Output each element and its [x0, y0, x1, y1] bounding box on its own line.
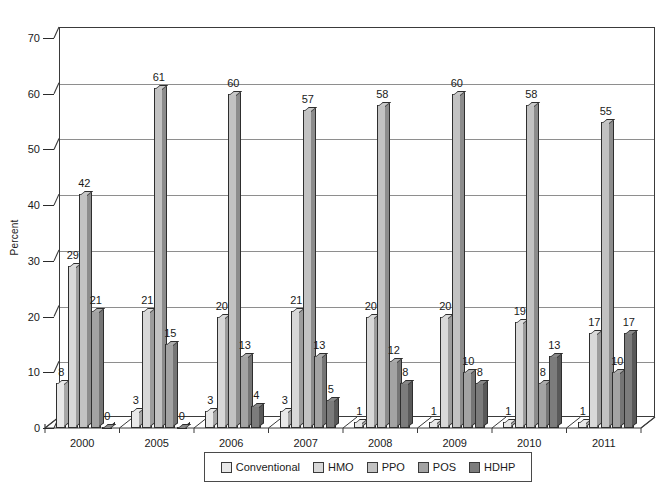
- legend-swatch-icon: [418, 462, 429, 473]
- bar-value-label: 13: [540, 340, 568, 351]
- bar-value-label: 8: [466, 367, 494, 378]
- bar-value-label: 17: [615, 317, 643, 328]
- bar: [79, 194, 89, 428]
- bar-value-label: 8: [391, 367, 419, 378]
- bar: [154, 88, 164, 428]
- bar: [612, 372, 622, 428]
- bar-value-label: 4: [242, 390, 270, 401]
- bar-value-label: 60: [443, 78, 471, 89]
- bar-value-label: 13: [305, 340, 333, 351]
- bar-value-label: 12: [380, 345, 408, 356]
- x-axis-tick-label: 2006: [191, 437, 271, 449]
- legend-swatch-icon: [367, 462, 378, 473]
- legend-swatch-icon: [221, 462, 232, 473]
- legend-item-label: HMO: [328, 462, 354, 473]
- bar-side-face: [408, 381, 413, 427]
- legend-item[interactable]: HDHP: [469, 462, 515, 473]
- bar: [440, 317, 450, 428]
- bar: [326, 400, 336, 428]
- bar: [624, 333, 634, 428]
- y-axis-tick-mark: [43, 205, 54, 206]
- bar-value-label: 21: [82, 295, 110, 306]
- chart-legend: ConventionalHMOPPOPOSHDHP: [204, 452, 532, 482]
- y-axis-tick-label: 40: [0, 200, 40, 210]
- bar: [131, 411, 141, 428]
- bar: [400, 383, 410, 428]
- bar: [354, 422, 364, 428]
- bar: [228, 94, 238, 428]
- x-axis-tick-label: 2009: [415, 437, 495, 449]
- y-axis-tick-mark: [43, 149, 54, 150]
- y-axis-tick-mark: [43, 261, 54, 262]
- y-axis-tick-mark: [43, 428, 54, 429]
- bar: [463, 372, 473, 428]
- legend-item[interactable]: Conventional: [221, 462, 300, 473]
- bar: [589, 333, 599, 428]
- gridline: [60, 195, 654, 196]
- legend-item-label: PPO: [382, 462, 405, 473]
- bar-value-label: 13: [231, 340, 259, 351]
- bar: [251, 406, 261, 428]
- bar-top-face: [103, 424, 116, 428]
- y-axis-tick-mark: [43, 317, 54, 318]
- y-axis-tick-label: 10: [0, 367, 40, 377]
- bar-value-label: 57: [294, 94, 322, 105]
- x-axis-tick-label: 2011: [564, 437, 644, 449]
- x-axis-tick-label: 2010: [489, 437, 569, 449]
- bar: [526, 105, 536, 428]
- axis-line: [641, 417, 655, 428]
- bar-value-label: 55: [592, 106, 620, 117]
- bar: [56, 383, 66, 428]
- legend-item[interactable]: POS: [418, 462, 456, 473]
- axis-line: [641, 417, 655, 428]
- bar-value-label: 0: [93, 411, 121, 422]
- gridline: [60, 84, 654, 85]
- bar: [549, 356, 559, 428]
- legend-item[interactable]: HMO: [313, 462, 354, 473]
- chart-canvas: Percent 010203040506070 8294221032161150…: [0, 0, 669, 492]
- legend-swatch-icon: [313, 462, 324, 473]
- bar-value-label: 58: [368, 89, 396, 100]
- x-axis-tick-label: 2000: [42, 437, 122, 449]
- bar-value-label: 5: [317, 384, 345, 395]
- bar: [503, 422, 513, 428]
- bar: [205, 411, 215, 428]
- bar: [303, 110, 313, 428]
- y-axis-tick-label: 60: [0, 89, 40, 99]
- x-axis-tick-label: 2008: [340, 437, 420, 449]
- bar: [601, 122, 611, 428]
- bar-side-face: [632, 330, 637, 427]
- x-axis-tick-label: 2005: [117, 437, 197, 449]
- bar-side-face: [483, 381, 488, 427]
- bar-value-label: 15: [156, 328, 184, 339]
- y-axis-tick-label: 20: [0, 312, 40, 322]
- y-axis-tick-mark: [43, 94, 54, 95]
- bar: [578, 422, 588, 428]
- y-axis-tick-mark: [43, 38, 54, 39]
- gridline: [60, 251, 654, 252]
- x-axis-tick-label: 2007: [266, 437, 346, 449]
- bar: [280, 411, 290, 428]
- legend-item[interactable]: PPO: [367, 462, 405, 473]
- legend-item-label: POS: [433, 462, 456, 473]
- bar: [366, 317, 376, 428]
- bar: [177, 427, 187, 429]
- bar: [515, 322, 525, 428]
- y-axis-tick-label: 50: [0, 144, 40, 154]
- legend-item-label: Conventional: [236, 462, 300, 473]
- bar: [291, 311, 301, 428]
- y-axis-tick-label: 0: [0, 423, 40, 433]
- bar: [142, 311, 152, 428]
- y-axis-tick-label: 30: [0, 256, 40, 266]
- bar-value-label: 58: [517, 89, 545, 100]
- bar-side-face: [334, 397, 339, 427]
- y-axis-tick-label: 70: [0, 33, 40, 43]
- bar-value-label: 60: [219, 78, 247, 89]
- bar: [102, 427, 112, 429]
- bar: [538, 383, 548, 428]
- bar: [475, 383, 485, 428]
- bar-value-label: 42: [70, 178, 98, 189]
- bar: [452, 94, 462, 428]
- bar-side-face: [99, 308, 104, 427]
- bar-side-face: [557, 353, 562, 427]
